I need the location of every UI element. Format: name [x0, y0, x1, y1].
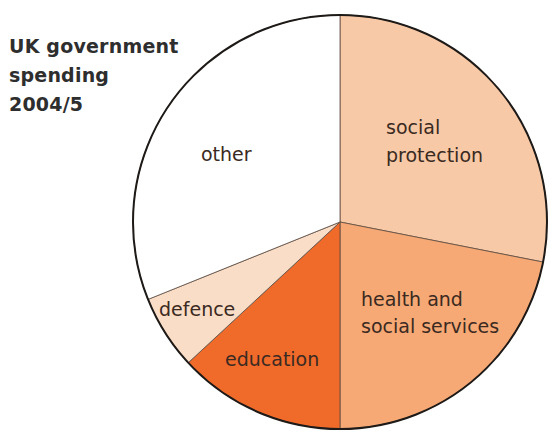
- slice-label-education: education: [225, 348, 319, 370]
- slice-label-defence: defence: [159, 298, 235, 320]
- pie-slice-social-protection: [340, 15, 547, 262]
- slice-label-health-2: social services: [361, 315, 499, 337]
- slice-label-social-protection-2: protection: [386, 144, 483, 166]
- pie-chart: social protection health and social serv…: [0, 0, 558, 433]
- slice-label-health-1: health and: [361, 288, 463, 310]
- slice-label-social-protection-1: social: [386, 116, 440, 138]
- slice-label-other: other: [201, 143, 252, 165]
- pie-slices: [133, 15, 547, 429]
